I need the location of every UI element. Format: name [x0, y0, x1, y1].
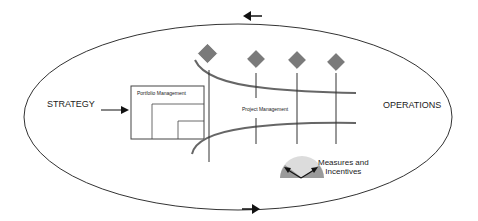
milestone-diamond-icon: [289, 52, 306, 69]
lower-funnel-curve: [192, 123, 356, 154]
strategy-operations-diagram: STRATEGY OPERATIONS Portfolio Management…: [0, 0, 478, 221]
project-management-label: Project Management: [242, 106, 288, 112]
measures-line1: Measures and: [318, 158, 369, 167]
measures-incentives-label: Measures and Incentives: [318, 158, 369, 176]
cycle-ellipse: [24, 24, 452, 210]
strategy-arrow-icon: [101, 106, 129, 114]
milestone-diamond-icon: [198, 44, 216, 62]
milestone-diamond-icon: [248, 51, 265, 68]
portfolio-management-label: Portfolio Management: [137, 90, 186, 96]
top-flow-arrow-icon: [243, 11, 262, 21]
strategy-label: STRATEGY: [47, 99, 95, 109]
bottom-flow-arrow-icon: [242, 204, 260, 214]
milestone-diamond-icon: [328, 54, 345, 71]
diagram-canvas: [0, 0, 478, 221]
measures-line2: Incentives: [318, 167, 369, 176]
operations-label: OPERATIONS: [383, 100, 441, 110]
